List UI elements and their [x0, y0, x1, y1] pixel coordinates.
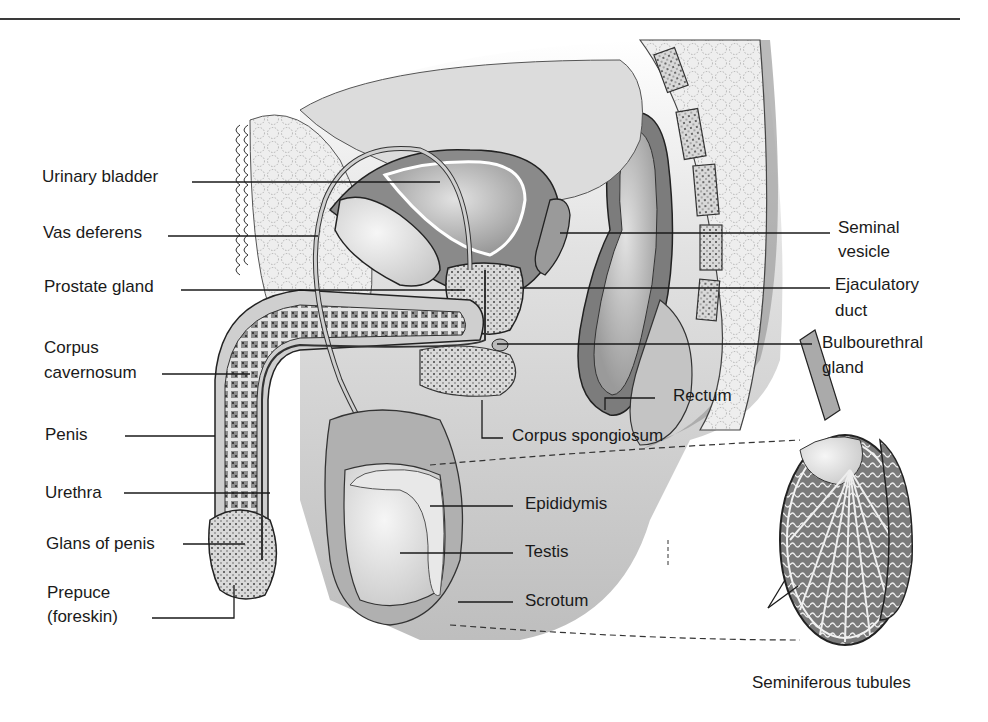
scrotum-illustration — [325, 410, 463, 625]
label-prepuce-line2: (foreskin) — [47, 606, 118, 627]
label-ejaculatory-duct-line1: Ejaculatory — [835, 274, 919, 295]
label-testis: Testis — [525, 541, 568, 562]
label-seminiferous-tubules: Seminiferous tubules — [752, 672, 911, 693]
label-corpus-cavernosum-line1: Corpus — [44, 337, 99, 358]
label-bulbourethral-gland-line1: Bulbourethral — [822, 332, 923, 353]
label-seminal-vesicle-line2: vesicle — [838, 241, 890, 262]
label-corpus-spongiosum: Corpus spongiosum — [512, 425, 663, 446]
label-urinary-bladder: Urinary bladder — [42, 166, 158, 187]
label-vas-deferens: Vas deferens — [43, 222, 142, 243]
glans-illustration — [209, 510, 277, 599]
label-bulbourethral-gland-line2: gland — [822, 357, 864, 378]
label-urethra: Urethra — [45, 482, 102, 503]
corpus-spongiosum-illustration — [420, 346, 516, 396]
label-corpus-cavernosum-line2: cavernosum — [44, 362, 137, 383]
label-prepuce-line1: Prepuce — [47, 582, 110, 603]
pubic-hair — [236, 125, 248, 275]
label-prostate-gland: Prostate gland — [44, 276, 154, 297]
label-glans-of-penis: Glans of penis — [46, 533, 155, 554]
label-seminal-vesicle-line1: Seminal — [838, 217, 899, 238]
bulbourethral-gland-illustration — [492, 339, 508, 351]
label-scrotum: Scrotum — [525, 590, 588, 611]
label-ejaculatory-duct-line2: duct — [835, 300, 867, 321]
label-rectum: Rectum — [673, 385, 732, 406]
label-penis: Penis — [45, 424, 88, 445]
label-epididymis: Epididymis — [525, 493, 607, 514]
